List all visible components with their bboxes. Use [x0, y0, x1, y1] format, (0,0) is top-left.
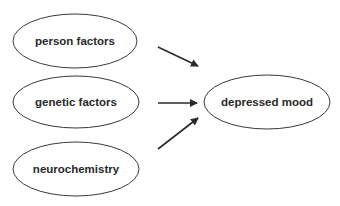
diagram-canvas: person factors genetic factors neurochem…	[0, 0, 340, 206]
node-person-factors: person factors	[13, 14, 137, 68]
node-genetic-factors: genetic factors	[13, 76, 139, 128]
arrow-person-to-mood	[158, 47, 198, 66]
node-label: person factors	[35, 35, 115, 47]
node-depressed-mood: depressed mood	[204, 75, 330, 129]
node-neurochemistry: neurochemistry	[13, 142, 139, 196]
arrow-neuro-to-mood	[158, 118, 198, 149]
node-label: depressed mood	[221, 96, 313, 108]
node-label: genetic factors	[35, 96, 117, 108]
node-label: neurochemistry	[33, 163, 120, 175]
